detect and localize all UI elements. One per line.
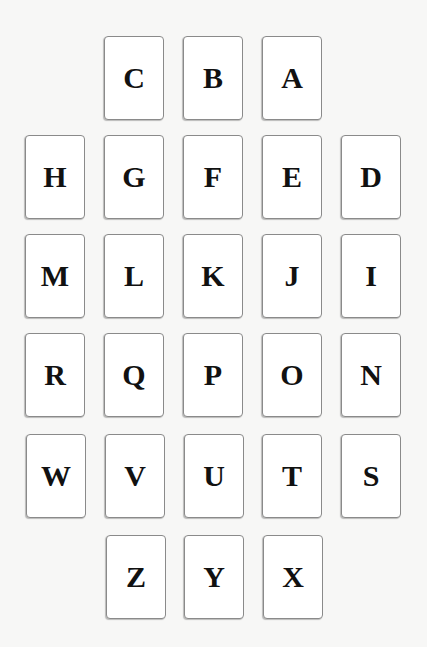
card-letter: C [123, 63, 145, 93]
card-letter: B [203, 63, 223, 93]
letter-card-z[interactable]: Z [106, 535, 166, 619]
letter-card-t[interactable]: T [262, 434, 322, 518]
letter-card-x[interactable]: X [263, 535, 323, 619]
letter-card-w[interactable]: W [26, 434, 86, 518]
card-letter: F [204, 162, 222, 192]
letter-card-k[interactable]: K [183, 234, 243, 318]
letter-card-m[interactable]: M [25, 234, 85, 318]
card-letter: X [282, 562, 304, 592]
card-letter: E [282, 162, 302, 192]
letter-card-a[interactable]: A [262, 36, 322, 120]
card-letter: Z [126, 562, 146, 592]
card-letter: G [122, 162, 145, 192]
card-letter: R [44, 360, 66, 390]
letter-card-b[interactable]: B [183, 36, 243, 120]
letter-card-r[interactable]: R [25, 333, 85, 417]
card-letter: K [201, 261, 224, 291]
card-letter: W [41, 461, 71, 491]
card-letter: N [360, 360, 382, 390]
letter-card-v[interactable]: V [105, 434, 165, 518]
letter-card-e[interactable]: E [262, 135, 322, 219]
card-letter: P [204, 360, 222, 390]
card-letter: T [282, 461, 302, 491]
letter-card-o[interactable]: O [262, 333, 322, 417]
letter-card-u[interactable]: U [184, 434, 244, 518]
letter-card-board: C B A H G F E D M L K J I R Q P [0, 0, 427, 647]
letter-card-y[interactable]: Y [184, 535, 244, 619]
card-letter: M [41, 261, 69, 291]
letter-card-p[interactable]: P [183, 333, 243, 417]
letter-card-i[interactable]: I [341, 234, 401, 318]
card-letter: V [124, 461, 146, 491]
card-letter: J [285, 261, 300, 291]
card-letter: I [365, 261, 377, 291]
letter-card-c[interactable]: C [104, 36, 164, 120]
letter-card-d[interactable]: D [341, 135, 401, 219]
letter-card-q[interactable]: Q [104, 333, 164, 417]
letter-card-l[interactable]: L [104, 234, 164, 318]
letter-card-f[interactable]: F [183, 135, 243, 219]
card-letter: S [363, 461, 380, 491]
card-letter: Q [122, 360, 145, 390]
card-letter: H [43, 162, 66, 192]
card-letter: A [281, 63, 303, 93]
letter-card-s[interactable]: S [341, 434, 401, 518]
letter-card-j[interactable]: J [262, 234, 322, 318]
letter-card-g[interactable]: G [104, 135, 164, 219]
letter-card-n[interactable]: N [341, 333, 401, 417]
card-letter: Y [203, 562, 225, 592]
letter-card-h[interactable]: H [25, 135, 85, 219]
card-letter: O [280, 360, 303, 390]
card-letter: U [203, 461, 225, 491]
card-letter: L [124, 261, 144, 291]
card-letter: D [360, 162, 382, 192]
